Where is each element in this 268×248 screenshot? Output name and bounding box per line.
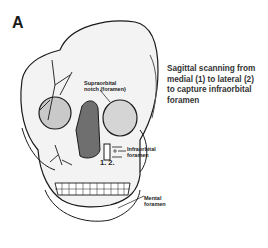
skull-diagram-figure: A Supraorbital [0,0,268,248]
mental-label: Mental foramen [144,195,166,207]
mental-label-line2: foramen [144,201,166,207]
caption-line-1: Sagittal scanning from [167,64,267,75]
infraorbital-label-line2: foramen [127,152,156,158]
caption-text: Sagittal scanning from medial (1) to lat… [167,64,267,107]
supraorbital-label: Supraorbital notch (foramen) [84,80,126,92]
caption-line-4: foramen [167,96,267,107]
scan-positions-label: 1. 2. [100,158,115,167]
caption-line-2: medial (1) to lateral (2) [167,75,267,86]
supraorbital-label-line2: notch (foramen) [84,86,126,92]
infraorbital-label: Infraorbital foramen [127,146,156,158]
skull-illustration [0,0,268,248]
caption-line-3: to capture infraorbital [167,85,267,96]
